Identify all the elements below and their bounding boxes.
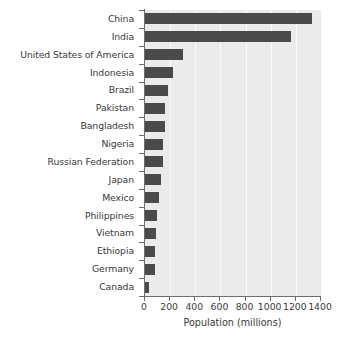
- x-axis-tick-label: 1200: [283, 301, 307, 313]
- bar: [145, 174, 161, 185]
- bar: [145, 192, 159, 203]
- y-axis-tick: [139, 278, 144, 279]
- y-axis-tick: [139, 46, 144, 47]
- bar-row: [145, 28, 321, 46]
- y-axis-label: Russian Federation: [48, 157, 134, 167]
- y-axis-label: United States of America: [20, 50, 134, 60]
- y-axis-label-row: Indonesia: [0, 64, 138, 82]
- y-axis-label: Philippines: [85, 211, 134, 221]
- x-axis-tick-label: 1400: [308, 301, 332, 313]
- y-axis-label-row: Philippines: [0, 207, 138, 225]
- bar-row: [145, 46, 321, 64]
- y-axis-tick: [139, 135, 144, 136]
- bar-row: [145, 260, 321, 278]
- bar: [145, 210, 157, 221]
- y-axis-label-row: Ethiopia: [0, 242, 138, 260]
- y-axis-label-row: United States of America: [0, 46, 138, 64]
- y-axis-label: Ethiopia: [97, 246, 134, 256]
- y-axis-label: Mexico: [102, 193, 134, 203]
- y-axis-label: Canada: [99, 282, 134, 292]
- bar-row: [145, 225, 321, 243]
- x-axis-tick-labels: 0200400600800100012001400: [0, 301, 345, 315]
- bar: [145, 31, 291, 42]
- x-axis-tick-label: 1000: [258, 301, 282, 313]
- y-axis-label: Nigeria: [101, 139, 134, 149]
- y-axis-tick: [139, 99, 144, 100]
- y-axis-label: Vietnam: [96, 228, 134, 238]
- bar: [145, 13, 312, 24]
- y-axis-tick: [139, 153, 144, 154]
- bar-row: [145, 153, 321, 171]
- bar-row: [145, 171, 321, 189]
- x-axis-tick-label: 800: [236, 301, 254, 313]
- y-axis-tick: [139, 82, 144, 83]
- bar-series: [145, 10, 321, 296]
- y-axis-label-row: Canada: [0, 278, 138, 296]
- y-axis-ticks: [139, 10, 144, 296]
- y-axis-label-row: Brazil: [0, 82, 138, 100]
- x-axis-title: Population (millions): [144, 317, 321, 328]
- y-axis-label: Brazil: [109, 85, 134, 95]
- y-axis-label-row: Bangladesh: [0, 117, 138, 135]
- y-axis-tick: [139, 171, 144, 172]
- bar-row: [145, 82, 321, 100]
- y-axis-label: Japan: [109, 175, 134, 185]
- bar: [145, 228, 156, 239]
- x-axis-tick-label: 200: [160, 301, 178, 313]
- bar-row: [145, 207, 321, 225]
- y-axis-tick: [139, 64, 144, 65]
- y-axis-tick: [139, 189, 144, 190]
- bar: [145, 282, 149, 293]
- x-axis-tick-label: 0: [141, 301, 147, 313]
- y-axis-tick: [139, 242, 144, 243]
- y-axis-tick: [139, 117, 144, 118]
- y-axis-tick: [139, 260, 144, 261]
- bar-row: [145, 135, 321, 153]
- y-axis-label-row: Vietnam: [0, 225, 138, 243]
- y-axis-label-row: Japan: [0, 171, 138, 189]
- y-axis-tick: [139, 28, 144, 29]
- y-axis-label: Indonesia: [90, 68, 134, 78]
- y-axis-tick: [139, 225, 144, 226]
- bar: [145, 67, 173, 78]
- y-axis-label: Pakistan: [96, 103, 134, 113]
- bar: [145, 103, 165, 114]
- x-axis-tick-label: 400: [185, 301, 203, 313]
- plot-area: [145, 10, 321, 296]
- bar-row: [145, 189, 321, 207]
- y-axis-label: China: [108, 14, 134, 24]
- y-axis-tick: [139, 207, 144, 208]
- bar: [145, 156, 163, 167]
- y-axis-category-labels: ChinaIndiaUnited States of AmericaIndone…: [0, 10, 138, 296]
- x-axis-tick-label: 600: [211, 301, 229, 313]
- y-axis-label-row: Pakistan: [0, 99, 138, 117]
- bar: [145, 121, 165, 132]
- y-axis-label-row: Nigeria: [0, 135, 138, 153]
- bar-row: [145, 242, 321, 260]
- bar-row: [145, 99, 321, 117]
- y-axis-label-row: Mexico: [0, 189, 138, 207]
- y-axis-label-row: Germany: [0, 260, 138, 278]
- bar: [145, 85, 168, 96]
- y-axis-label-row: India: [0, 28, 138, 46]
- bar: [145, 49, 183, 60]
- y-axis-label: Bangladesh: [80, 121, 134, 131]
- bar: [145, 246, 155, 257]
- y-axis-label-row: Russian Federation: [0, 153, 138, 171]
- y-axis-label-row: China: [0, 10, 138, 28]
- bar-row: [145, 10, 321, 28]
- y-axis-tick: [139, 10, 144, 11]
- bar-row: [145, 117, 321, 135]
- bar: [145, 264, 155, 275]
- population-bar-chart: ChinaIndiaUnited States of AmericaIndone…: [0, 0, 345, 345]
- bar-row: [145, 64, 321, 82]
- y-axis-label: India: [112, 32, 134, 42]
- bar-row: [145, 278, 321, 296]
- y-axis-label: Germany: [92, 264, 134, 274]
- bar: [145, 139, 163, 150]
